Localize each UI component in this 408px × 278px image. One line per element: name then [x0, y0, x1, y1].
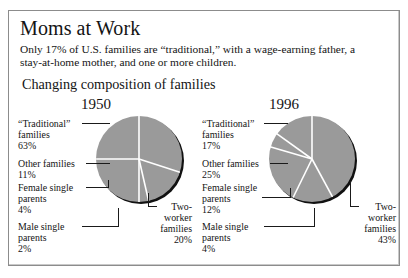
slice-label-name: Other families	[18, 158, 75, 169]
slice-label-pct: 4%	[202, 243, 248, 254]
section-heading: Changing composition of families	[22, 76, 215, 93]
slice-label-other-1996: Other families 25%	[202, 158, 259, 180]
slice-label-name: Male single	[18, 221, 64, 232]
slice-label-pct: 4%	[18, 204, 73, 215]
leader-line-female-v	[108, 180, 109, 188]
slice-label-name: Female single	[202, 182, 257, 193]
leader-line-female-h	[262, 197, 290, 198]
leader-line-other	[86, 163, 110, 164]
slice-label-name3: families	[160, 223, 192, 234]
slice-label-name3: families	[364, 223, 396, 234]
slice-label-female-1996: Female single parents 12%	[202, 182, 257, 215]
chart-year-label: 1950	[0, 96, 194, 113]
deck-text: Only 17% of U.S. families are “tradition…	[20, 43, 370, 69]
slice-label-pct: 43%	[312, 234, 396, 245]
leader-line-other	[270, 163, 288, 164]
slice-label-two-worker-1996: Two- worker families 43%	[312, 201, 396, 245]
slice-label-pct: 25%	[202, 169, 259, 180]
leader-line-traditional	[264, 123, 288, 124]
leader-line-two-worker-v	[148, 193, 149, 207]
leader-line-two-worker-h	[148, 206, 157, 207]
slice-label-name: Male single	[202, 221, 248, 232]
pie-slices-1950	[95, 115, 183, 203]
slice-label-name2: parents	[18, 232, 47, 243]
slice-label-name2: families	[18, 129, 50, 140]
leader-line-female-v	[290, 188, 291, 198]
slice-label-name: Other families	[202, 158, 259, 169]
pie-chart-1950: 1950 “Traditional” families 63%	[12, 96, 208, 272]
slice-label-name2: worker	[368, 212, 396, 223]
slice-label-name2: parents	[202, 193, 231, 204]
page-title: Moms at Work	[20, 16, 140, 40]
slice-label-pct: 11%	[18, 169, 75, 180]
slice-label-name2: parents	[18, 193, 47, 204]
leader-line-male-h	[264, 226, 314, 227]
slice-label-female-1950: Female single parents 4%	[18, 182, 73, 215]
slice-label-name2: worker	[164, 212, 192, 223]
slice-label-pct: 2%	[18, 243, 64, 254]
pie-chart-1996: 1996 “Traditional” families 17%	[202, 96, 398, 272]
slice-label-traditional-1996: “Traditional” families 17%	[202, 118, 254, 151]
slice-label-pct: 17%	[202, 140, 254, 151]
slice-label-name: “Traditional”	[18, 118, 70, 129]
slice-label-male-1950: Male single parents 2%	[18, 221, 64, 254]
leader-line-two-worker-v	[350, 181, 351, 207]
leader-line-two-worker-h	[350, 206, 359, 207]
slice-label-name: “Traditional”	[202, 118, 254, 129]
slice-label-name: Two-	[171, 201, 192, 212]
slice-label-pct: 20%	[110, 234, 192, 245]
pie-graphic-1996	[268, 115, 360, 207]
leader-line-traditional	[82, 123, 110, 124]
slice-label-name2: families	[202, 129, 234, 140]
slice-label-pct: 12%	[202, 204, 257, 215]
slice-label-pct: 63%	[18, 140, 70, 151]
slice-label-male-1996: Male single parents 4%	[202, 221, 248, 254]
infographic-root: Moms at Work Only 17% of U.S. families a…	[0, 0, 408, 278]
slice-label-other-1950: Other families 11%	[18, 158, 75, 180]
slice-label-traditional-1950: “Traditional” families 63%	[18, 118, 70, 151]
slice-label-name2: parents	[202, 232, 231, 243]
pie-graphic-1950	[95, 115, 187, 207]
slice-label-two-worker-1950: Two- worker families 20%	[110, 201, 192, 245]
slice-label-name: Female single	[18, 182, 73, 193]
leader-line-female-h	[86, 187, 108, 188]
pie-slices-1996	[268, 115, 356, 203]
chart-year-label: 1996	[186, 96, 382, 113]
slice-label-name: Two-	[375, 201, 396, 212]
